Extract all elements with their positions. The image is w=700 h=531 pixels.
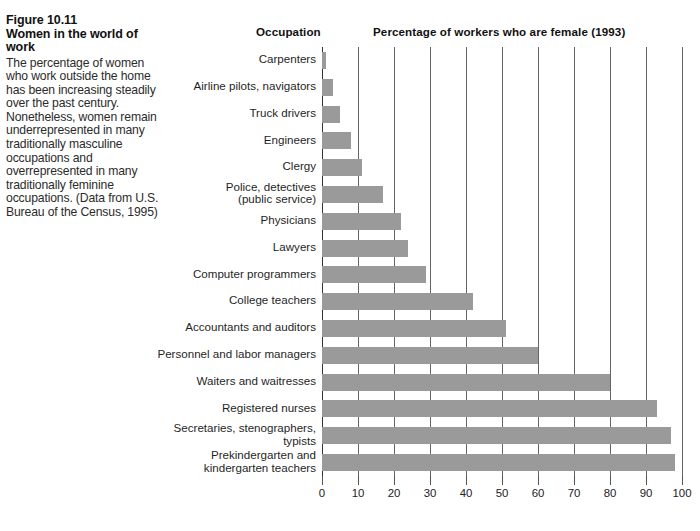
bar bbox=[322, 454, 675, 471]
category-label: Computer programmers bbox=[96, 268, 316, 281]
chart-region: Occupation Percentage of workers who are… bbox=[168, 0, 700, 531]
chart-row: Truck drivers bbox=[322, 101, 682, 128]
axis-tick-label: 20 bbox=[388, 487, 401, 499]
axis-tick bbox=[538, 476, 539, 485]
category-label: Engineers bbox=[96, 134, 316, 147]
category-label: Registered nurses bbox=[96, 402, 316, 415]
bar bbox=[322, 79, 333, 96]
bar bbox=[322, 400, 657, 417]
axis-tick bbox=[322, 476, 323, 485]
axis-tick bbox=[394, 476, 395, 485]
bar bbox=[322, 427, 671, 444]
chart-row: Airline pilots, navigators bbox=[322, 74, 682, 101]
bar bbox=[322, 159, 362, 176]
bar bbox=[322, 186, 383, 203]
chart-row: Registered nurses bbox=[322, 396, 682, 423]
chart-row: Police, detectives (public service) bbox=[322, 181, 682, 208]
axis-tick-label: 60 bbox=[532, 487, 545, 499]
bar bbox=[322, 52, 326, 69]
bar bbox=[322, 293, 473, 310]
axis-tick bbox=[358, 476, 359, 485]
bar bbox=[322, 106, 340, 123]
bar bbox=[322, 132, 351, 149]
column-header-occupation: Occupation bbox=[256, 25, 321, 38]
category-label: Accountants and auditors bbox=[96, 321, 316, 334]
axis-tick bbox=[574, 476, 575, 485]
category-label: Waiters and waitresses bbox=[96, 375, 316, 388]
axis-tick bbox=[466, 476, 467, 485]
axis-tick-label: 90 bbox=[640, 487, 653, 499]
chart-row: Computer programmers bbox=[322, 262, 682, 289]
figure-number: Figure 10.11 bbox=[6, 14, 168, 28]
figure-title-block: Figure 10.11 Women in the world of work bbox=[6, 14, 168, 55]
chart-row: College teachers bbox=[322, 288, 682, 315]
axis-tick bbox=[502, 476, 503, 485]
category-label: Personnel and labor managers bbox=[96, 348, 316, 361]
category-label: Airline pilots, navigators bbox=[96, 80, 316, 93]
chart-row: Waiters and waitresses bbox=[322, 369, 682, 396]
category-label: Lawyers bbox=[96, 241, 316, 254]
bar bbox=[322, 266, 426, 283]
axis-tick bbox=[610, 476, 611, 485]
chart-row: Prekindergarten and kindergarten teacher… bbox=[322, 449, 682, 476]
chart-row: Secretaries, stenographers, typists bbox=[322, 422, 682, 449]
axis-tick-label: 100 bbox=[672, 487, 691, 499]
axis-tick-label: 80 bbox=[604, 487, 617, 499]
figure-title: Women in the world of work bbox=[6, 28, 168, 55]
axis-tick bbox=[682, 476, 683, 485]
axis-tick-label: 70 bbox=[568, 487, 581, 499]
bar bbox=[322, 240, 408, 257]
bar bbox=[322, 213, 401, 230]
axis-tick-label: 0 bbox=[319, 487, 325, 499]
category-label: Physicians bbox=[96, 214, 316, 227]
bar bbox=[322, 320, 506, 337]
chart-row: Engineers bbox=[322, 127, 682, 154]
gridline bbox=[682, 47, 683, 476]
category-label: Truck drivers bbox=[96, 107, 316, 120]
plot-area: 0102030405060708090100CarpentersAirline … bbox=[322, 47, 682, 476]
chart-row: Accountants and auditors bbox=[322, 315, 682, 342]
bar bbox=[322, 347, 538, 364]
category-label: Clergy bbox=[96, 160, 316, 173]
chart-row: Personnel and labor managers bbox=[322, 342, 682, 369]
category-label: Police, detectives (public service) bbox=[96, 181, 316, 206]
chart-row: Physicians bbox=[322, 208, 682, 235]
bar bbox=[322, 374, 610, 391]
axis-tick bbox=[430, 476, 431, 485]
chart-row: Clergy bbox=[322, 154, 682, 181]
category-label: Prekindergarten and kindergarten teacher… bbox=[96, 449, 316, 474]
category-label: College teachers bbox=[96, 294, 316, 307]
chart-row: Lawyers bbox=[322, 235, 682, 262]
axis-tick bbox=[646, 476, 647, 485]
axis-tick-label: 40 bbox=[460, 487, 473, 499]
axis-tick-label: 50 bbox=[496, 487, 509, 499]
category-label: Carpenters bbox=[96, 53, 316, 66]
axis-tick-label: 30 bbox=[424, 487, 437, 499]
chart-row: Carpenters bbox=[322, 47, 682, 74]
axis-tick-label: 10 bbox=[352, 487, 365, 499]
category-label: Secretaries, stenographers, typists bbox=[96, 422, 316, 447]
column-header-percentage: Percentage of workers who are female (19… bbox=[373, 25, 625, 38]
